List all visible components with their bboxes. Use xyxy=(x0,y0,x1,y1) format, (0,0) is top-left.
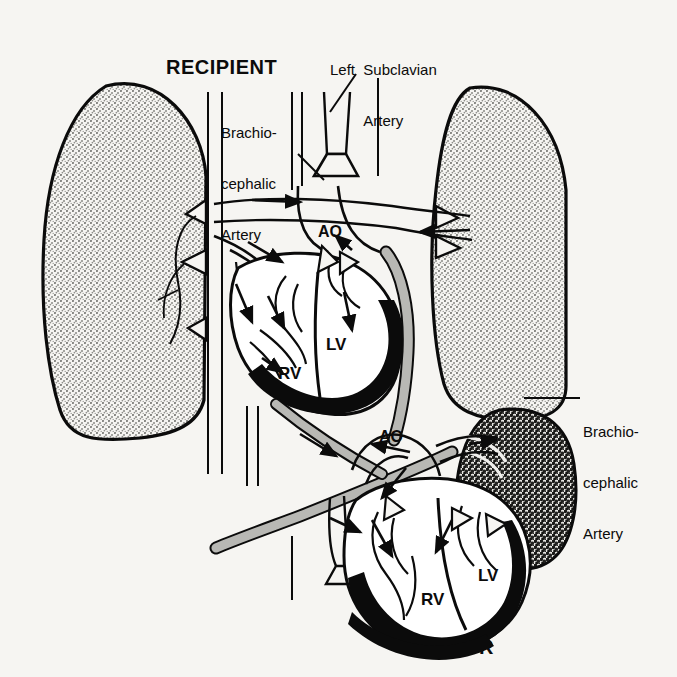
brachiocephalic-right-line3: Artery xyxy=(583,525,639,542)
figure-canvas: RECIPIENT DONOR Left Subclavian Artery B… xyxy=(0,0,677,677)
donor-left-ventricle-label: LV xyxy=(478,566,498,586)
left-subclavian-artery-label-line2: Artery xyxy=(330,112,437,129)
brachiocephalic-left-line1: Brachio- xyxy=(221,124,277,141)
recipient-aorta-label: AO xyxy=(318,223,342,241)
left-subclavian-artery-label-line1: Left Subclavian xyxy=(330,61,437,78)
brachiocephalic-left-line3: Artery xyxy=(221,226,277,243)
brachiocephalic-artery-label-left: Brachio- cephalic Artery xyxy=(221,90,277,277)
recipient-right-lung xyxy=(432,87,566,420)
recipient-left-lung xyxy=(43,84,206,440)
donor-caption: DONOR xyxy=(417,636,494,659)
recipient-caption: RECIPIENT xyxy=(166,56,277,79)
brachiocephalic-artery-label-right: Brachio- cephalic Artery xyxy=(583,389,639,576)
brachiocephalic-right-line1: Brachio- xyxy=(583,423,639,440)
brachiocephalic-left-line2: cephalic xyxy=(221,175,277,192)
brachiocephalic-right-line2: cephalic xyxy=(583,474,639,491)
recipient-left-ventricle-label: LV xyxy=(326,335,346,355)
recipient-right-ventricle-label: RV xyxy=(278,364,301,384)
donor-aorta-label: AO xyxy=(379,428,403,446)
left-subclavian-artery-label: Left Subclavian Artery xyxy=(330,27,437,163)
donor-right-ventricle-label: RV xyxy=(421,590,444,610)
